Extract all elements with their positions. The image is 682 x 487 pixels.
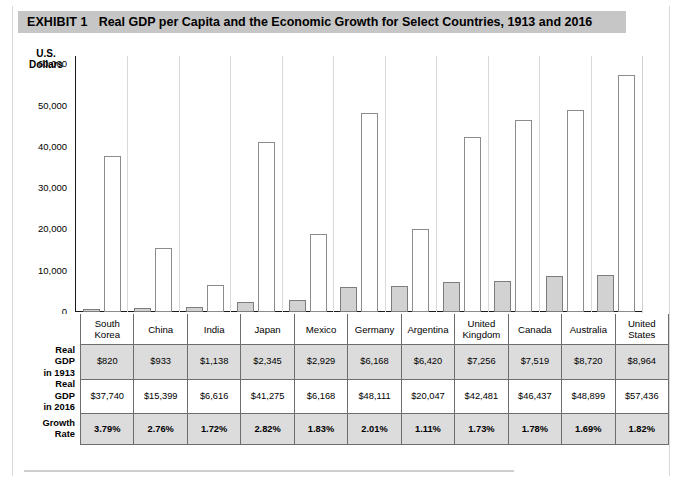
- country-name-line: Kingdom: [462, 329, 500, 340]
- y-axis-tick-label: 60,000: [18, 58, 75, 70]
- bar-2016: [361, 113, 378, 312]
- growth-rate-cell: 1.82%: [615, 414, 668, 445]
- bar-2016: [618, 75, 635, 312]
- growth-rate-cell: 1.73%: [455, 414, 508, 445]
- country-header-cell: Canada: [508, 314, 561, 345]
- country-header-cell: India: [187, 314, 240, 345]
- exhibit-title: Real GDP per Capita and the Economic Gro…: [99, 15, 593, 29]
- gdp-1913-cell: $6,168: [348, 345, 401, 380]
- table-row-growth-rate: GrowthRate3.79%2.76%1.72%2.82%1.83%2.01%…: [18, 414, 669, 445]
- bar-1913: [391, 286, 408, 313]
- row-label-line: Rate: [55, 429, 75, 439]
- growth-rate-cell: 2.82%: [241, 414, 294, 445]
- data-table: SouthKoreaChinaIndiaJapanMexicoGermanyAr…: [18, 314, 669, 445]
- y-axis-tick-label: 50,000: [18, 100, 75, 112]
- category-separator: [488, 56, 489, 312]
- bar-group: [436, 56, 487, 312]
- bar-group: [179, 56, 230, 312]
- exhibit-title-bar: EXHIBIT 1 Real GDP per Capita and the Ec…: [18, 11, 626, 33]
- gdp-1913-cell: $7,519: [508, 345, 561, 380]
- category-separator: [282, 56, 283, 312]
- bar-1913: [340, 287, 357, 312]
- bar-1913: [237, 302, 254, 312]
- gdp-2016-cell: $15,399: [134, 379, 187, 414]
- country-name-line: Argentina: [407, 324, 448, 335]
- bottom-rule: [24, 470, 514, 472]
- gdp-1913-cell: $1,138: [187, 345, 240, 380]
- gdp-2016-cell: $6,168: [294, 379, 347, 414]
- row-label-line: GDP: [55, 391, 75, 401]
- bar-series-container: [76, 56, 642, 312]
- category-separator: [385, 56, 386, 312]
- y-axis-tick-label: 10,000: [18, 265, 75, 277]
- gdp-1913-cell: $2,929: [294, 345, 347, 380]
- exhibit-number: EXHIBIT 1: [27, 15, 88, 29]
- bar-1913: [494, 281, 511, 312]
- row-label-line: Real: [55, 345, 75, 355]
- country-header-cell: UnitedKingdom: [455, 314, 508, 345]
- category-separator: [436, 56, 437, 312]
- bar-1913: [134, 308, 151, 312]
- country-name-line: South: [95, 318, 120, 329]
- country-header-cell: SouthKorea: [81, 314, 134, 345]
- bar-group: [539, 56, 590, 312]
- bar-1913: [443, 282, 460, 312]
- bar-group: [591, 56, 642, 312]
- bar-group: [230, 56, 281, 312]
- bar-group: [282, 56, 333, 312]
- gdp-2016-cell: $6,616: [187, 379, 240, 414]
- country-name-line: Germany: [355, 324, 394, 335]
- country-name-line: United: [468, 318, 496, 329]
- y-axis-tick-label: 20,000: [18, 223, 75, 235]
- plot-right-edge: [642, 56, 643, 313]
- row-label-line: in 1913: [43, 368, 75, 378]
- country-name-line: China: [148, 324, 173, 335]
- gdp-1913-cell: $8,720: [562, 345, 615, 380]
- bar-group: [127, 56, 178, 312]
- growth-rate-cell: 2.76%: [134, 414, 187, 445]
- chart-area: U.S. Dollars 60,00050,00040,00030,00020,…: [18, 44, 670, 324]
- bar-group: [488, 56, 539, 312]
- data-table-wrap: SouthKoreaChinaIndiaJapanMexicoGermanyAr…: [18, 314, 670, 445]
- row-label-gdp-2016: RealGDPin 2016: [18, 379, 81, 414]
- gdp-2016-cell: $42,481: [455, 379, 508, 414]
- row-label-line: Real: [55, 379, 75, 389]
- growth-rate-cell: 2.01%: [348, 414, 401, 445]
- row-label-line: GDP: [55, 356, 75, 366]
- gdp-2016-cell: $20,047: [401, 379, 454, 414]
- row-label-gdp-1913: RealGDPin 1913: [18, 345, 81, 380]
- bar-group: [333, 56, 384, 312]
- category-separator: [333, 56, 334, 312]
- row-label-countries: [18, 314, 81, 345]
- country-name-line: Korea: [94, 329, 120, 340]
- gdp-2016-cell: $37,740: [81, 379, 134, 414]
- country-name-line: Canada: [518, 324, 552, 335]
- bar-1913: [83, 309, 100, 312]
- y-axis-tick-label: 40,000: [18, 141, 75, 153]
- gdp-2016-cell: $41,275: [241, 379, 294, 414]
- gdp-2016-cell: $48,899: [562, 379, 615, 414]
- country-name-line: India: [204, 324, 225, 335]
- bar-2016: [104, 156, 121, 312]
- bar-2016: [207, 285, 224, 312]
- country-name-line: United: [628, 318, 656, 329]
- bar-2016: [464, 137, 481, 312]
- table-row-gdp-1913: RealGDPin 1913$820$933$1,138$2,345$2,929…: [18, 345, 669, 380]
- country-name-line: Mexico: [306, 324, 336, 335]
- bar-2016: [310, 234, 327, 312]
- gdp-1913-cell: $6,420: [401, 345, 454, 380]
- category-separator: [179, 56, 180, 312]
- gdp-1913-cell: $7,256: [455, 345, 508, 380]
- gdp-2016-cell: $46,437: [508, 379, 561, 414]
- country-header-cell: Mexico: [294, 314, 347, 345]
- bar-group: [76, 56, 127, 312]
- bar-1913: [289, 300, 306, 312]
- bar-2016: [412, 229, 429, 312]
- gdp-1913-cell: $8,964: [615, 345, 668, 380]
- growth-rate-cell: 1.11%: [401, 414, 454, 445]
- gdp-2016-cell: $57,436: [615, 379, 668, 414]
- bar-1913: [597, 275, 614, 312]
- growth-rate-cell: 1.83%: [294, 414, 347, 445]
- y-axis-tick-label: 30,000: [18, 182, 75, 194]
- table-row-gdp-2016: RealGDPin 2016$37,740$15,399$6,616$41,27…: [18, 379, 669, 414]
